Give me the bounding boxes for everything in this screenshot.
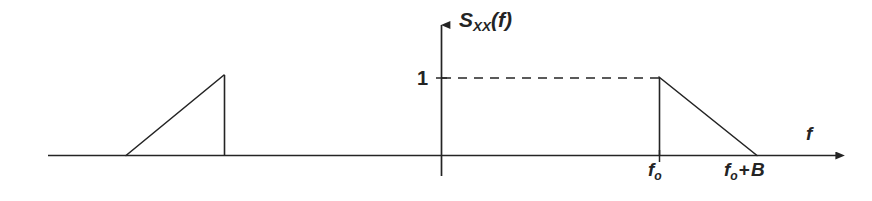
negative-frequency-ramp — [126, 75, 224, 156]
y-axis-label-base: S — [459, 8, 473, 31]
y-axis-label: SXX(f) — [459, 9, 512, 30]
x-tick-label-f0-plus-b-subscript: o — [730, 169, 737, 183]
x-tick-label-f0-plus-b: fo+B — [724, 160, 765, 179]
x-tick-label-f0-subscript: o — [654, 169, 661, 183]
y-axis-label-argument: (f) — [491, 8, 512, 31]
x-axis-label: f — [806, 124, 812, 143]
spectral-density-figure: SXX(f) 1 fo fo+B f — [0, 0, 872, 201]
y-tick-label-one: 1 — [417, 68, 428, 88]
x-tick-label-bandwidth: B — [751, 159, 765, 180]
y-axis-label-subscript: XX — [473, 19, 491, 34]
x-tick-label-f0: fo — [648, 160, 662, 179]
x-tick-label-plus-operator: + — [738, 159, 751, 180]
positive-frequency-ramp — [659, 77, 757, 156]
